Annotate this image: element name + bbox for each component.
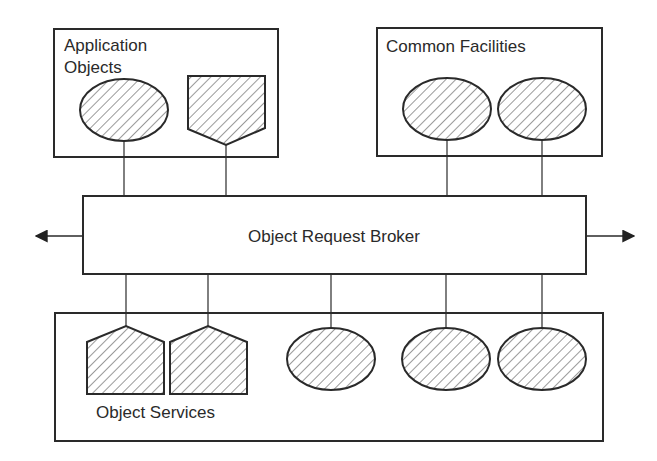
corba-architecture-diagram: Application Objects Common Facilities Ob…: [0, 0, 657, 461]
application-objects-label-line1: Application: [64, 36, 147, 55]
object-service-ellipse-icon: [498, 328, 586, 390]
orb-label: Object Request Broker: [248, 227, 420, 246]
object-service-pentagon-icon: [87, 326, 164, 394]
common-facilities-group: Common Facilities: [377, 28, 602, 156]
application-objects-label-line2: Objects: [64, 58, 122, 77]
common-facility-ellipse-icon: [498, 78, 586, 140]
object-service-pentagon-icon: [170, 326, 247, 394]
application-object-ellipse-icon: [80, 79, 168, 141]
orb-group: Object Request Broker: [36, 196, 634, 274]
object-service-ellipse-icon: [402, 328, 490, 390]
object-services-group: Object Services: [55, 313, 603, 441]
object-services-label: Object Services: [96, 403, 215, 422]
application-objects-group: Application Objects: [54, 29, 278, 157]
object-service-ellipse-icon: [287, 328, 375, 390]
application-object-pentagon-icon: [188, 76, 265, 145]
common-facilities-label: Common Facilities: [386, 37, 526, 56]
common-facility-ellipse-icon: [403, 78, 491, 140]
